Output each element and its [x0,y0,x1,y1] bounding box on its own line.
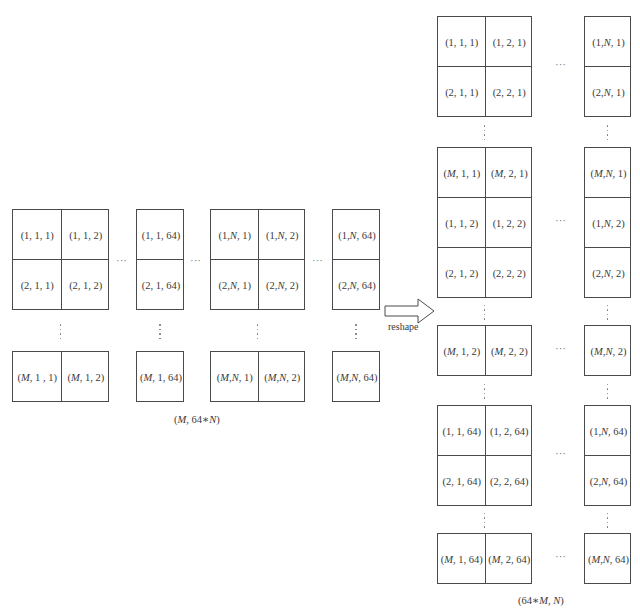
vertical-ellipsis-icon [484,513,486,531]
matrix-cell: (M, 2, 2) [486,326,534,376]
matrix-block: (M, N, 2) [584,325,631,376]
vertical-ellipsis-icon [159,324,161,342]
matrix-cell: (2, N, 1) [211,260,259,310]
input-dimension-label: (M, 64∗N) [174,413,220,425]
matrix-cell: (2, 1, 64) [137,260,185,310]
matrix-cell: (1, 1, 64) [137,210,185,260]
matrix-cell: (2, N, 64) [333,260,381,310]
matrix-block: (1, 1, 64)(1, 2, 64)(2, 1, 64)(2, 2, 64) [437,405,532,506]
matrix-cell: (M, N, 1) [211,352,259,402]
matrix-cell: (2, 1, 1) [13,260,62,310]
matrix-block: (M, N, 1)(M, N, 2) [210,351,305,402]
matrix-cell: (1, 2, 2) [486,198,534,248]
matrix-cell: (M, 1, 64) [137,352,185,402]
matrix-block: (M, 1 , 1)(M, 1, 2) [12,351,109,402]
matrix-cell: (2, 2, 2) [486,248,534,298]
horizontal-ellipsis-icon: ··· [190,254,201,266]
cell-divider [13,259,108,260]
matrix-cell: (M, 1, 2) [62,352,111,402]
matrix-block: (1, N, 64)(2, N, 64) [332,209,380,310]
matrix-cell: (2, N, 1) [585,67,632,117]
vertical-ellipsis-icon [607,513,609,531]
matrix-block: (1, N, 64)(2, N, 64) [584,405,631,506]
vertical-ellipsis-icon [484,305,486,323]
matrix-cell: (M, N, 64) [585,534,632,584]
vertical-ellipsis-icon [607,305,609,323]
cell-divider [585,455,630,456]
matrix-cell: (1, N, 2) [259,210,307,260]
matrix-cell: (M, 2, 1) [486,148,534,198]
cell-divider [61,352,62,401]
cell-divider [485,534,486,583]
matrix-block: (M, 1, 64) [136,351,184,402]
vertical-ellipsis-icon [607,125,609,143]
matrix-block: (1, 1, 1)(1, 2, 1)(2, 1, 1)(2, 2, 1) [437,16,532,117]
matrix-cell: (M, N, 2) [259,352,307,402]
matrix-cell: (M, 1, 1) [438,148,486,198]
matrix-cell: (M, 2, 64) [486,534,534,584]
output-dimension-label: (64∗M, N) [518,594,564,606]
vertical-ellipsis-icon [257,324,259,342]
matrix-cell: (M, N, 2) [585,326,632,376]
vertical-ellipsis-icon [355,324,357,342]
matrix-cell: (1, N, 1) [585,17,632,67]
matrix-block: (M, N, 64) [584,533,631,584]
reshape-label: reshape [388,321,419,332]
matrix-cell: (M, 1, 64) [438,534,486,584]
matrix-cell: (M, N, 64) [333,352,381,402]
matrix-cell: (1, N, 1) [211,210,259,260]
vertical-ellipsis-icon [607,384,609,402]
vertical-ellipsis-icon [484,384,486,402]
matrix-cell: (1, N, 64) [333,210,381,260]
matrix-cell: (1, 1, 2) [62,210,111,260]
matrix-cell: (1, 2, 64) [486,406,534,456]
matrix-cell: (1, N, 64) [585,406,632,456]
matrix-cell: (2, N, 2) [259,260,307,310]
horizontal-ellipsis-icon: ··· [312,254,323,266]
matrix-block: (1, N, 1)(1, N, 2)(2, N, 1)(2, N, 2) [210,209,305,310]
matrix-block: (M, N, 64) [332,351,380,402]
matrix-block: (1, 1, 1)(1, 1, 2)(2, 1, 1)(2, 1, 2) [12,209,109,310]
matrix-cell: (2, 1, 2) [438,248,486,298]
matrix-cell: (M, 1 , 1) [13,352,62,402]
matrix-cell: (1, 1, 1) [13,210,62,260]
cell-divider [585,247,630,248]
matrix-cell: (2, N, 2) [585,248,632,298]
matrix-block: (1, 1, 64)(2, 1, 64) [136,209,184,310]
cell-divider [211,259,304,260]
cell-divider [485,326,486,375]
matrix-cell: (1, 1, 64) [438,406,486,456]
cell-divider [585,197,630,198]
matrix-cell: (M, N, 1) [585,148,632,198]
matrix-cell: (2, 2, 1) [486,67,534,117]
matrix-block: (1, N, 1)(2, N, 1) [584,16,631,117]
matrix-cell: (2, N, 64) [585,456,632,506]
cell-divider [485,406,486,505]
matrix-cell: (1, 2, 1) [486,17,534,67]
matrix-block: (M, 1, 2)(M, 2, 2) [437,325,532,376]
matrix-cell: (1, 1, 2) [438,198,486,248]
matrix-block: (M, 1, 1)(M, 2, 1)(1, 1, 2)(1, 2, 2)(2, … [437,147,532,298]
cell-divider [333,259,379,260]
matrix-cell: (2, 1, 2) [62,260,111,310]
cell-divider [585,66,630,67]
vertical-ellipsis-icon [484,125,486,143]
vertical-ellipsis-icon [60,324,62,342]
horizontal-ellipsis-icon: ··· [555,447,566,459]
horizontal-ellipsis-icon: ··· [555,58,566,70]
matrix-cell: (2, 2, 64) [486,456,534,506]
horizontal-ellipsis-icon: ··· [116,254,127,266]
matrix-cell: (1, N, 2) [585,198,632,248]
cell-divider [258,352,259,401]
horizontal-ellipsis-icon: ··· [555,342,566,354]
matrix-block: (M, N, 1)(1, N, 2)(2, N, 2) [584,147,631,298]
matrix-block: (M, 1, 64)(M, 2, 64) [437,533,532,584]
cell-divider [485,17,486,116]
cell-divider [137,259,183,260]
matrix-cell: (2, 1, 1) [438,67,486,117]
horizontal-ellipsis-icon: ··· [555,214,566,226]
matrix-cell: (1, 1, 1) [438,17,486,67]
horizontal-ellipsis-icon: ··· [555,550,566,562]
cell-divider [485,148,486,297]
matrix-cell: (M, 1, 2) [438,326,486,376]
